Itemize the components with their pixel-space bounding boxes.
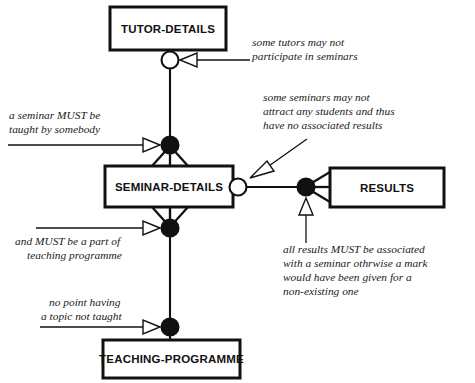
entity-label-results: RESULTS (360, 182, 414, 194)
note-seminars-optional-line-3: have no associated results (263, 119, 383, 131)
note-no-point-having-topic: no point having a topic not taught (41, 296, 123, 322)
entity-label-seminar-details: SEMINAR-DETAILS (115, 181, 223, 193)
note-seminar-must-be-taught-line-2: taught by somebody (9, 123, 101, 135)
marker-mandatory-seminar-tutor (162, 137, 179, 154)
leader-note-results-must-be-associated (299, 198, 313, 243)
note-seminar-must-be-taught-line-1: a seminar MUST be (9, 109, 100, 121)
arrowhead-note-must-be-part-of-programme (143, 221, 160, 235)
marker-mandatory-programme-seminar (162, 319, 179, 336)
note-seminar-must-be-taught: a seminar MUST be taught by somebody (9, 109, 101, 135)
arrowhead-note-no-point-having-topic (143, 320, 160, 334)
note-tutors-optional-line-1: some tutors may not (252, 36, 345, 48)
marker-mandatory-results-seminar (298, 179, 315, 196)
note-tutors-optional: some tutors may not participate in semin… (251, 36, 358, 62)
note-no-point-having-topic-line-1: no point having (49, 296, 121, 308)
note-results-must-be-associated: all results MUST be associated with a se… (283, 243, 429, 297)
note-results-must-be-associated-line-4: non-existing one (283, 285, 359, 297)
marker-optional-tutor-seminar (162, 52, 179, 69)
note-seminars-optional-line-2: attract any students and thus (263, 105, 395, 117)
note-seminars-optional-line-1: some seminars may not (263, 91, 370, 103)
arrowhead-note-seminars-optional (250, 161, 274, 178)
marker-mandatory-seminar-programme (162, 220, 179, 237)
arrowhead-note-results-must-be-associated (299, 198, 313, 215)
note-seminars-optional: some seminars may not attract any studen… (263, 91, 395, 131)
leader-note-no-point-having-topic (40, 320, 160, 334)
leader-note-seminar-must-be-taught (8, 138, 160, 152)
note-results-must-be-associated-line-1: all results MUST be associated (283, 243, 425, 255)
note-must-be-part-of-programme-line-2: teaching programme (27, 249, 122, 261)
leader-note-must-be-part-of-programme (36, 221, 160, 235)
note-must-be-part-of-programme: and MUST be a part of teaching programme (15, 235, 122, 261)
arrowhead-note-seminar-must-be-taught (143, 138, 160, 152)
arrowhead-note-tutors-optional (180, 53, 197, 67)
entity-label-tutor-details: TUTOR-DETAILS (121, 23, 215, 35)
entity-tutor-details[interactable]: TUTOR-DETAILS (110, 7, 226, 50)
er-diagram-canvas: TUTOR-DETAILS SEMINAR-DETAILS RESULTS TE… (0, 0, 475, 383)
leader-note-seminars-optional (250, 139, 307, 178)
er-diagram-svg: TUTOR-DETAILS SEMINAR-DETAILS RESULTS TE… (0, 0, 475, 383)
marker-optional-seminar-results (230, 179, 247, 196)
entity-label-teaching-programme: TEACHING-PROGRAMME (99, 353, 244, 365)
note-tutors-optional-line-2: participate in seminars (251, 50, 358, 62)
entity-teaching-programme[interactable]: TEACHING-PROGRAMME (99, 340, 244, 378)
note-no-point-having-topic-line-2: a topic not taught (41, 310, 123, 322)
entity-seminar-details[interactable]: SEMINAR-DETAILS (105, 166, 233, 207)
note-results-must-be-associated-line-2: with a seminar othrwise a mark (283, 257, 429, 269)
note-results-must-be-associated-line-3: would have been given for a (283, 271, 412, 283)
leader-note-tutors-optional (180, 53, 250, 67)
note-must-be-part-of-programme-line-1: and MUST be a part of (15, 235, 122, 247)
entity-results[interactable]: RESULTS (330, 168, 444, 207)
